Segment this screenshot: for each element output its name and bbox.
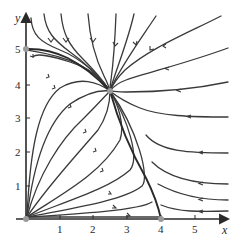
x-axis-label: x (221, 223, 228, 237)
y-tick-5: 5 (15, 43, 21, 55)
x-tick-5: 5 (192, 223, 198, 235)
x-tick-2: 2 (90, 223, 96, 235)
x-tick-4: 4 (158, 223, 164, 235)
x-tick-3: 3 (124, 223, 130, 235)
y-tick-2: 2 (15, 146, 21, 158)
x-tick-1: 1 (57, 223, 63, 235)
x-tick-labels: 1 2 3 4 5 x (57, 223, 228, 237)
y-tick-4: 4 (15, 79, 21, 91)
y-axis-label: y (14, 11, 21, 25)
phase-portrait: 1 2 3 4 5 x 1 2 3 4 5 y (0, 0, 242, 245)
equilibrium-interior (107, 88, 113, 94)
trajectories (27, 14, 228, 217)
y-tick-1: 1 (15, 180, 21, 192)
y-tick-labels: 1 2 3 4 5 y (14, 11, 21, 192)
y-tick-3: 3 (15, 112, 21, 124)
separatrix-curve (110, 91, 161, 219)
equilibrium-0-5 (23, 46, 29, 52)
equilibrium-4-0 (158, 216, 164, 222)
equilibrium-origin (23, 216, 29, 222)
